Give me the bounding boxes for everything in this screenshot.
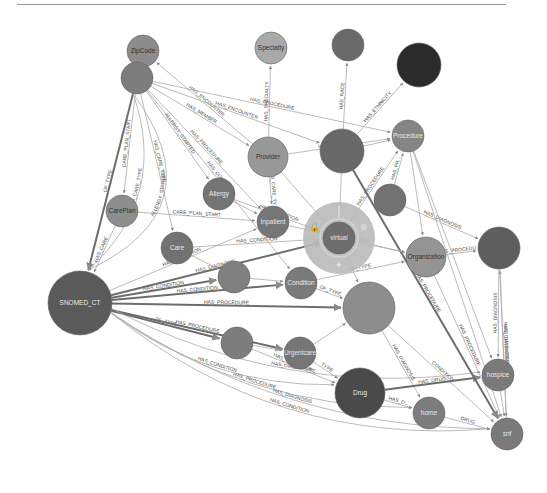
relationship-edge[interactable]	[157, 63, 253, 144]
graph-nodes: ZipCodeSpecialtyProviderProcedureAllergy…	[48, 29, 523, 450]
relationship-label: CARE_PLAN_START	[120, 119, 131, 168]
node-label: Care	[170, 244, 184, 251]
graph-node-snf[interactable]: snf	[491, 418, 523, 450]
graph-node[interactable]	[343, 282, 395, 334]
node-label: Procedure	[393, 132, 423, 139]
node-label: Drug	[353, 389, 367, 397]
graph-node-hospice[interactable]: hospice	[482, 359, 514, 391]
relationship-edge[interactable]	[313, 323, 345, 344]
graph-node[interactable]	[397, 43, 441, 87]
node-circle[interactable]	[332, 29, 364, 61]
relationship-label: HAS_PROCEDURE	[189, 128, 225, 165]
node-label: home	[421, 409, 438, 416]
graph-node-provider[interactable]: Provider	[248, 137, 288, 177]
relationship-label: HAS_PROCEDURE	[204, 299, 250, 306]
relationship-label: HAS_PROCEDURE	[415, 271, 443, 314]
relationship-edge[interactable]	[250, 278, 283, 281]
graph-node-careplan[interactable]: CarePlan	[106, 195, 138, 227]
node-label: SNOMED_CT	[60, 299, 101, 307]
close-icon[interactable]: ⊗	[360, 222, 368, 232]
node-circle[interactable]	[121, 62, 153, 94]
node-circle[interactable]	[343, 282, 395, 334]
node-label: virtual	[330, 234, 348, 241]
node-label: Organization	[408, 253, 445, 261]
relationship-label: HAS_PROCEDURE	[458, 323, 483, 367]
graph-node-specialty[interactable]: Specialty	[255, 32, 287, 64]
node-label: Provider	[256, 153, 281, 160]
graph-node[interactable]	[221, 327, 253, 359]
graph-canvas[interactable]: HAS_ZIPCODEHAS_ENCOUNTERHAS_SPECIALTYHAS…	[0, 0, 547, 493]
relationship-label: OF_TYPE	[319, 283, 343, 297]
relationship-edge[interactable]	[88, 94, 133, 271]
node-label: Inpatient	[261, 218, 286, 226]
graph-node[interactable]	[478, 227, 520, 269]
relationship-label: HAS_ZIPCODE	[0, 0, 140, 70]
relationship-edge[interactable]	[498, 269, 499, 357]
graph-node-procedure[interactable]: Procedure	[392, 120, 424, 152]
graph-node-organization[interactable]: Organization	[406, 237, 446, 277]
graph-node-condition[interactable]: Condition	[285, 267, 317, 299]
node-label: CarePlan	[108, 207, 135, 214]
node-label: hospice	[487, 371, 510, 379]
graph-node[interactable]	[332, 29, 364, 61]
graph-node[interactable]	[320, 129, 364, 173]
node-circle[interactable]	[320, 129, 364, 173]
graph-node-drug[interactable]: Drug	[335, 368, 385, 418]
node-circle[interactable]	[478, 227, 520, 269]
graph-node-home[interactable]: home	[413, 397, 445, 429]
node-label: Specialty	[258, 44, 285, 52]
relationship-edge[interactable]	[500, 391, 504, 416]
graph-node-allergy[interactable]: Allergy	[203, 178, 235, 210]
relationship-edge[interactable]	[410, 152, 422, 235]
relationship-label: HAS_ETHNICITY	[362, 89, 393, 123]
lock-icon[interactable]: 🔒	[309, 222, 320, 232]
node-circle[interactable]	[374, 184, 406, 216]
graph-node[interactable]	[121, 62, 153, 94]
expand-icon[interactable]: ✦	[335, 260, 343, 270]
relationship-edge[interactable]	[405, 206, 478, 238]
node-label: Condition	[287, 279, 315, 286]
relationship-edge[interactable]	[434, 275, 499, 417]
graph-node-inpatient[interactable]: Inpatient	[257, 206, 289, 238]
relationship-label: HAS_DIAGNOSIS	[423, 208, 463, 230]
node-label: Urgentcare	[284, 349, 317, 357]
node-label: ZipCode	[131, 47, 156, 55]
relationship-label: HAS_DIAGNOSIS	[492, 292, 498, 334]
node-circle[interactable]	[218, 261, 250, 293]
graph-node[interactable]	[218, 261, 250, 293]
relationship-label: HAS_PR...	[389, 156, 401, 181]
node-circle[interactable]	[397, 43, 441, 87]
graph-node-care[interactable]: Care	[161, 232, 193, 264]
node-circle[interactable]	[221, 327, 253, 359]
relationship-edge[interactable]	[152, 83, 319, 143]
graph-node-snomed[interactable]: SNOMED_CT	[48, 271, 112, 335]
graph-node[interactable]	[374, 184, 406, 216]
node-label: Allergy	[209, 190, 230, 198]
graph-node-zipcode[interactable]: ZipCode	[127, 35, 159, 67]
graph-node-virtual[interactable]: virtual	[323, 222, 355, 254]
graph-node-urgentcare[interactable]: Urgentcare	[284, 337, 317, 369]
node-label: snf	[503, 430, 512, 437]
